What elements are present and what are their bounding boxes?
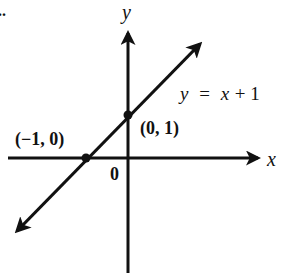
origin-label: 0 bbox=[110, 164, 119, 184]
equation-equals: = bbox=[199, 83, 210, 104]
x-axis-label: x bbox=[266, 148, 276, 170]
point-label-neg1-0: (−1, 0) bbox=[15, 129, 64, 150]
equation-rhs-var: x bbox=[220, 83, 230, 104]
line-graph: .. y x 0 y = x + 1 (0, 1) (−1, 0) bbox=[0, 0, 282, 273]
equation-rhs-rest: + 1 bbox=[235, 83, 260, 104]
equation-label: y = x + 1 bbox=[178, 83, 260, 104]
corner-marker: .. bbox=[0, 2, 6, 19]
point-label-0-1: (0, 1) bbox=[140, 118, 179, 139]
equation-lhs: y bbox=[178, 83, 189, 104]
point-neg1-0-dot bbox=[82, 154, 91, 163]
point-0-1-dot bbox=[124, 111, 133, 120]
y-axis-label: y bbox=[120, 1, 131, 24]
